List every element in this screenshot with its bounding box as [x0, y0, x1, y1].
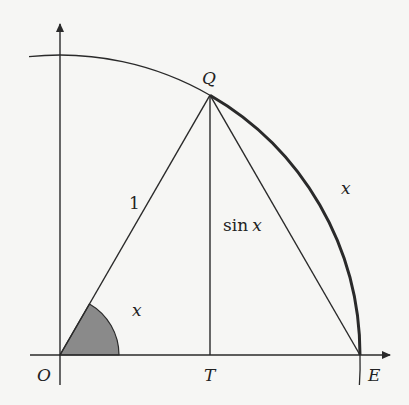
point-label-q: Q	[202, 68, 216, 88]
angle-label: x	[132, 300, 142, 320]
angle-sector	[60, 304, 119, 355]
height-label: sinx	[223, 215, 262, 235]
height-label-fn: sin	[223, 215, 248, 235]
radius-label: 1	[129, 193, 140, 213]
circle-arc	[29, 55, 210, 95]
height-label-var: x	[252, 215, 262, 235]
point-label-o: O	[37, 365, 51, 385]
point-label-t: T	[204, 365, 217, 385]
unit-circle-diagram: Q O T E 1 sinx x x	[0, 0, 409, 405]
point-label-e: E	[367, 365, 381, 385]
arc-label: x	[341, 178, 351, 198]
arc-extension	[359, 355, 360, 385]
